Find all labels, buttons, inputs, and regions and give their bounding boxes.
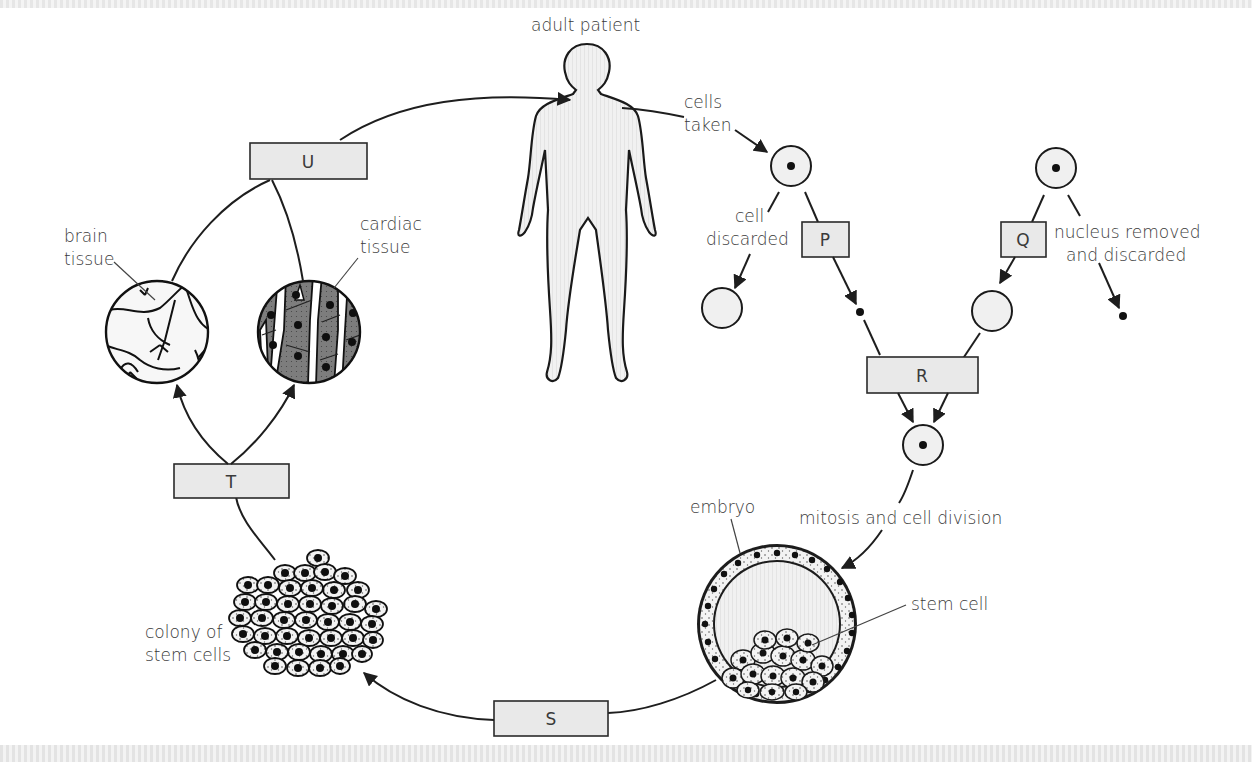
step-box-u: U <box>250 143 367 179</box>
line-colony-to-t <box>236 497 275 560</box>
arrow-mitosis-to-embryo <box>842 530 882 568</box>
step-box-q: Q <box>1001 222 1046 257</box>
arrow-s-to-colony <box>364 673 494 720</box>
fused-cell <box>903 425 943 465</box>
discarded-nucleus <box>1119 312 1127 320</box>
enucleated-egg-cell <box>972 291 1012 331</box>
leader-cardiac-tissue <box>334 258 358 288</box>
extracted-nucleus <box>856 308 864 316</box>
label-cell: cell <box>735 206 764 226</box>
cardiac-tissue-sample <box>258 275 360 385</box>
arrow-p-to-nucleus <box>833 257 856 304</box>
line-to-q <box>1032 195 1044 222</box>
label-brain-tissue: tissue <box>64 249 114 269</box>
egg-cell <box>1036 148 1076 188</box>
svg-text:Q: Q <box>1016 230 1029 250</box>
label-cardiac-tissue: tissue <box>360 237 410 257</box>
embryo-blastocyst <box>697 544 857 704</box>
label-taken: taken <box>684 115 732 135</box>
adult-patient-figure <box>518 44 655 381</box>
label-nucleus-removed: nucleus removed <box>1054 222 1200 242</box>
label-and-discarded: and discarded <box>1066 245 1186 265</box>
label-mitosis: mitosis and cell division <box>799 508 1002 528</box>
arrow-r-right <box>934 393 948 422</box>
label-discarded: discarded <box>706 229 789 249</box>
label-embryo: embryo <box>690 497 755 517</box>
label-cells: cells <box>684 92 722 112</box>
arrow-cells-taken <box>735 130 767 152</box>
line-fused-to-mitosis <box>899 470 913 503</box>
line-enucleated-to-r <box>962 333 980 360</box>
label-stem-cells: stem cells <box>145 645 231 665</box>
discarded-cell <box>702 288 742 328</box>
cloning-diagram: adult patient cells taken cell discarded… <box>0 0 1252 762</box>
label-adult-patient: adult patient <box>531 15 640 35</box>
step-box-r: R <box>867 357 978 393</box>
label-stem-cell: stem cell <box>911 594 988 614</box>
line-to-p <box>805 192 818 222</box>
label-brain: brain <box>64 226 108 246</box>
arrow-q-to-enucleated <box>1000 257 1015 283</box>
label-colony-of: colony of <box>145 622 223 642</box>
step-box-s: S <box>494 701 608 736</box>
line-cardiac-to-u <box>272 180 303 281</box>
label-cardiac: cardiac <box>360 214 422 234</box>
step-box-p: P <box>802 222 849 257</box>
arrow-t-to-cardiac <box>231 385 294 464</box>
line-nucleus-removed <box>1068 195 1080 216</box>
leader-embryo <box>731 519 740 553</box>
svg-text:P: P <box>820 230 830 250</box>
svg-text:S: S <box>546 709 557 729</box>
line-brain-to-u <box>172 180 270 281</box>
body-cell <box>771 146 811 186</box>
step-box-t: T <box>174 464 289 498</box>
svg-text:U: U <box>302 152 314 172</box>
stem-cell-colony <box>229 550 387 676</box>
arrow-t-to-brain <box>177 385 228 464</box>
svg-text:R: R <box>916 366 928 386</box>
line-cell-discard-top <box>768 192 779 212</box>
arrow-nucleus-discarded <box>1099 263 1119 308</box>
brain-tissue-sample <box>105 281 210 385</box>
arrow-r-left <box>898 393 913 422</box>
line-nucleus-to-r <box>864 320 880 355</box>
svg-text:T: T <box>225 472 237 492</box>
line-embryo-to-s <box>608 680 716 713</box>
arrow-cell-discarded <box>735 254 750 288</box>
